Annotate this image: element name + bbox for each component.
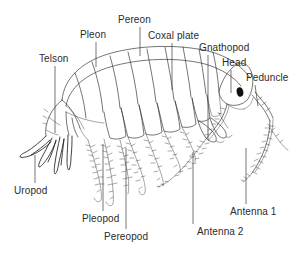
dorsal-body-arch xyxy=(62,46,250,106)
label-peduncle: Peduncle xyxy=(246,72,289,83)
antenna-1 xyxy=(241,92,288,182)
head-capsule xyxy=(219,63,253,109)
label-telson: Telson xyxy=(39,53,69,64)
uropod-rami xyxy=(20,135,72,174)
pleopod-1 xyxy=(86,140,104,202)
eye-icon xyxy=(236,87,244,97)
pereopod-3 xyxy=(162,131,180,173)
label-uropod: Uropod xyxy=(14,185,47,196)
pleopods xyxy=(86,139,132,206)
label-coxal-plate: Coxal plate xyxy=(148,30,199,41)
label-head: Head xyxy=(222,57,246,68)
label-pereon: Pereon xyxy=(118,14,151,25)
amphipod-anatomy-figure: Pereon Coxal plate Pleon Gnathopod Telso… xyxy=(0,0,303,259)
label-pereopod: Pereopod xyxy=(104,231,148,242)
label-pleopod: Pleopod xyxy=(82,213,119,224)
telson-and-uropods xyxy=(20,100,88,174)
label-antenna-2: Antenna 2 xyxy=(197,226,244,237)
coxal-plates xyxy=(104,92,221,139)
label-antenna-1: Antenna 1 xyxy=(230,206,277,217)
pereon-segments xyxy=(128,47,219,104)
pleopod-3 xyxy=(117,140,132,194)
label-gnathopod: Gnathopod xyxy=(199,42,249,53)
label-pleon: Pleon xyxy=(80,29,106,40)
pereopods xyxy=(126,127,195,195)
peduncle xyxy=(252,92,273,121)
pereopod-2 xyxy=(144,134,163,186)
pleopod-2 xyxy=(101,139,117,206)
